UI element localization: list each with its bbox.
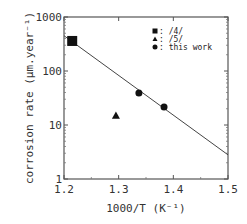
legend-square-icon [153, 29, 158, 34]
legend-label: : this work [159, 43, 212, 52]
y-tick-label: 1 [55, 173, 62, 186]
x-axis-title: 1000/T (K⁻¹) [106, 202, 185, 215]
legend-triangle-icon [153, 37, 158, 42]
circle-marker [161, 104, 168, 111]
y-tick-label: 10 [49, 119, 62, 132]
triangle-marker [112, 111, 120, 118]
x-tick-label: 1.4 [163, 183, 183, 196]
square-marker [67, 36, 77, 46]
legend: : /4/: /5/: this work [153, 27, 213, 52]
y-axis-title: corrosion rate (μm.year⁻¹) [23, 12, 36, 184]
legend-circle-icon [153, 45, 158, 50]
x-tick-label: 1.5 [218, 183, 238, 196]
y-tick-label: 100 [42, 65, 62, 78]
x-tick-label: 1.3 [109, 183, 129, 196]
plot-border [64, 17, 228, 179]
fit-line [64, 36, 228, 155]
corrosion-rate-chart: 1.21.31.41.51101001000 : /4/: /5/: this … [0, 0, 247, 224]
plot-frame [64, 17, 228, 179]
regression-line [64, 36, 228, 155]
circle-marker [135, 90, 142, 97]
axis-ticks: 1.21.31.41.51101001000 [36, 11, 238, 196]
y-tick-label: 1000 [36, 11, 63, 24]
